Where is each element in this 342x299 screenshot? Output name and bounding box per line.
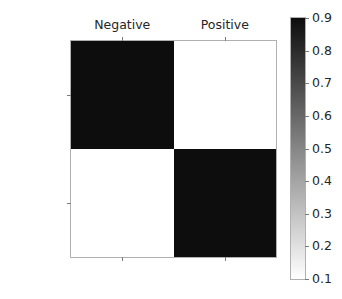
colorbar-tick-label-1: 0.8 xyxy=(312,44,332,57)
colorbar-tick-mark-3 xyxy=(305,116,309,117)
colorbar-tick-label-6: 0.3 xyxy=(312,208,332,221)
xtick-mark-top-negative xyxy=(122,37,123,41)
heatmap-axes: Negative Positive Negative Positive xyxy=(70,40,277,258)
colorbar-tick-mark-7 xyxy=(305,246,309,247)
ytick-mark-positive xyxy=(67,203,71,204)
colorbar-tick-label-5: 0.4 xyxy=(312,175,332,188)
xtick-label-negative: Negative xyxy=(94,19,150,32)
colorbar-tick-label-7: 0.2 xyxy=(312,240,332,253)
heatmap-cell-positive-positive xyxy=(174,149,277,257)
xtick-mark-bottom-negative xyxy=(122,257,123,261)
colorbar-tick-mark-4 xyxy=(305,149,309,150)
colorbar-tick-mark-0 xyxy=(305,18,309,19)
colorbar-tick-label-0: 0.9 xyxy=(312,12,332,25)
colorbar-axes: 0.9 0.8 0.7 0.6 0.5 0.4 0.3 0.2 0.1 xyxy=(290,17,306,280)
colorbar-tick-mark-2 xyxy=(305,83,309,84)
heatmap-cell-positive-negative xyxy=(71,149,174,257)
xtick-mark-top-positive xyxy=(225,37,226,41)
xtick-mark-bottom-positive xyxy=(225,257,226,261)
colorbar-tick-label-2: 0.7 xyxy=(312,77,332,90)
colorbar-tick-mark-6 xyxy=(305,214,309,215)
figure-canvas: Negative Positive Negative Positive 0.9 … xyxy=(0,0,342,299)
xtick-label-positive: Positive xyxy=(201,19,249,32)
colorbar-tick-mark-5 xyxy=(305,181,309,182)
colorbar-gradient xyxy=(291,18,305,279)
heatmap-cell-negative-negative xyxy=(71,41,174,149)
heatmap-cell-negative-positive xyxy=(174,41,277,149)
colorbar-tick-label-4: 0.5 xyxy=(312,142,332,155)
colorbar-tick-mark-1 xyxy=(305,51,309,52)
colorbar-tick-label-3: 0.6 xyxy=(312,110,332,123)
colorbar-tick-label-8: 0.1 xyxy=(312,273,332,286)
heatmap-grid xyxy=(71,41,276,257)
colorbar-tick-mark-8 xyxy=(305,279,309,280)
ytick-mark-negative xyxy=(67,95,71,96)
